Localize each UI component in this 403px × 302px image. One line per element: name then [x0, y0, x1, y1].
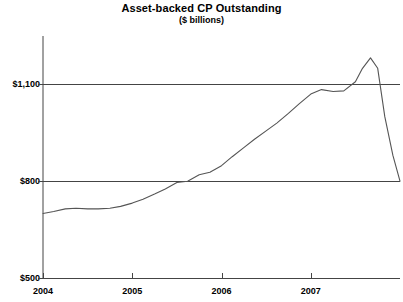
gridlines-group: [38, 85, 400, 279]
data-series-line: [43, 58, 400, 214]
chart-container: Asset-backed CP Outstanding ($ billions)…: [0, 0, 403, 302]
plot-area: [0, 0, 403, 302]
x-tick-marks-group: [44, 273, 312, 278]
